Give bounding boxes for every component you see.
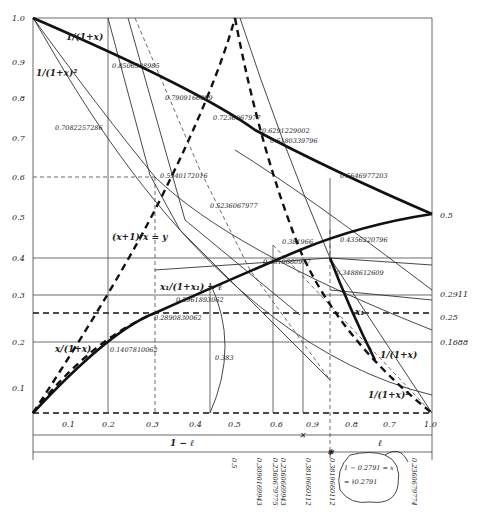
svg-text:0.7: 0.7 xyxy=(383,420,397,429)
svg-text:0.7082257286: 0.7082257286 xyxy=(55,124,103,132)
svg-text:0.2360669943: 0.2360669943 xyxy=(279,458,287,506)
svg-text:0.3: 0.3 xyxy=(12,291,25,300)
svg-text:1 − 0.2791 = x: 1 − 0.2791 = x xyxy=(344,464,394,472)
svg-text:0.2360679775: 0.2360679775 xyxy=(271,458,279,506)
svg-text:✱: ✱ xyxy=(327,448,335,457)
svg-text:0.5940172016: 0.5940172016 xyxy=(160,172,208,180)
svg-text:0.8: 0.8 xyxy=(345,420,358,429)
svg-text:0.5: 0.5 xyxy=(12,213,25,222)
svg-text:0.6180339796: 0.6180339796 xyxy=(270,137,318,145)
svg-text:0.5: 0.5 xyxy=(228,420,241,429)
svg-text:0.7909166999: 0.7909166999 xyxy=(165,94,213,102)
circled-note: 1 − 0.2791 = x = ∤0.2791 xyxy=(339,451,408,502)
svg-text:0.7236067977: 0.7236067977 xyxy=(213,114,261,122)
svg-text:0.3090169943: 0.3090169943 xyxy=(255,458,263,506)
svg-text:1/(1+x): 1/(1+x) xyxy=(66,32,103,42)
svg-text:1/(1+x): 1/(1+x) xyxy=(380,350,417,360)
svg-text:0.1407810062: 0.1407810062 xyxy=(110,346,158,354)
svg-text:0.8506508985: 0.8506508985 xyxy=(112,62,160,70)
svg-text:x/(1+x): x/(1+x) xyxy=(54,344,91,354)
svg-text:0.1: 0.1 xyxy=(12,384,25,393)
svg-text:0.3: 0.3 xyxy=(146,420,159,429)
svg-text:0.9: 0.9 xyxy=(12,58,25,67)
svg-text:0.5: 0.5 xyxy=(230,458,238,468)
svg-text:✕: ✕ xyxy=(299,431,306,440)
svg-text:ℓ: ℓ xyxy=(378,438,382,448)
svg-text:0.4: 0.4 xyxy=(12,254,25,263)
svg-text:0.8: 0.8 xyxy=(12,94,25,103)
right-axis-labels: 0.5 0.2911 0.25 0.1688 xyxy=(440,211,468,347)
svg-text:0.3488612609: 0.3488612609 xyxy=(336,269,384,277)
svg-text:0.7: 0.7 xyxy=(12,134,26,143)
svg-text:0.3819660977: 0.3819660977 xyxy=(263,258,311,266)
svg-text:0.5236067977: 0.5236067977 xyxy=(210,202,258,210)
svg-text:0.381966: 0.381966 xyxy=(282,238,313,246)
svg-text:0.1688: 0.1688 xyxy=(440,338,468,347)
svg-text:0.25: 0.25 xyxy=(440,313,458,322)
svg-text:0.1: 0.1 xyxy=(62,420,75,429)
svg-text:0.2890830062: 0.2890830062 xyxy=(154,314,202,322)
svg-text:0.3819660112: 0.3819660112 xyxy=(304,458,312,506)
svg-text:1/(1+x)²: 1/(1+x)² xyxy=(368,390,409,400)
svg-text:x₁: x₁ xyxy=(354,307,364,317)
svg-text:0.2911: 0.2911 xyxy=(440,290,468,299)
y-axis-ticks: 1.0 0.9 0.8 0.7 0.6 0.5 0.4 0.3 0.2 0.1 xyxy=(12,14,26,393)
svg-text:1.0: 1.0 xyxy=(424,420,437,429)
svg-text:0.2: 0.2 xyxy=(102,420,115,429)
svg-text:0.6: 0.6 xyxy=(12,173,25,182)
svg-text:0.2: 0.2 xyxy=(12,338,25,347)
svg-text:1.0: 1.0 xyxy=(12,14,25,23)
x-axis-ticks: 0.1 0.2 0.3 0.4 0.5 0.6 0.9 0.8 0.7 1.0 … xyxy=(62,420,437,448)
svg-text:0.9: 0.9 xyxy=(306,420,319,429)
svg-text:0.2360679774: 0.2360679774 xyxy=(410,458,418,506)
svg-text:1/(1+x)²: 1/(1+x)² xyxy=(36,68,77,78)
svg-text:1 − ℓ: 1 − ℓ xyxy=(170,438,194,448)
svg-text:0.5: 0.5 xyxy=(440,211,453,220)
svg-text:0.6291229002: 0.6291229002 xyxy=(262,127,310,135)
svg-text:= ∤0.2791: = ∤0.2791 xyxy=(344,478,377,486)
svg-text:0.5646977203: 0.5646977203 xyxy=(340,172,388,180)
svg-text:x₁/(1+x₁) = ℓ: x₁/(1+x₁) = ℓ xyxy=(159,282,222,292)
svg-text:0.4: 0.4 xyxy=(189,420,202,429)
nomogram-sheet: ✕ ✱ 1.0 0.9 0.8 0.7 0.6 0.5 0.4 0.3 0.2 xyxy=(0,0,479,518)
svg-text:0.6: 0.6 xyxy=(270,420,283,429)
svg-text:(x+1)/x = y: (x+1)/x = y xyxy=(112,232,168,242)
svg-text:0.4356220796: 0.4356220796 xyxy=(340,236,388,244)
x-span-arrows: ✕ ✱ xyxy=(33,431,432,457)
horizontal-gridlines xyxy=(33,177,432,413)
svg-text:0.3819660112: 0.3819660112 xyxy=(328,458,336,506)
